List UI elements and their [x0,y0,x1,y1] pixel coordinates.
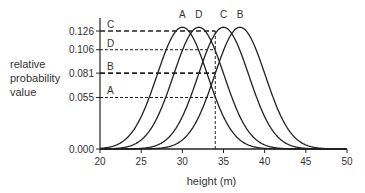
x-tick-label: 20 [94,156,106,167]
y-tick-label: 0.081 [69,68,94,79]
x-tick-label: 50 [341,156,353,167]
x-tick-label: 45 [300,156,312,167]
curve-C [100,27,347,149]
dashed-line-label-C: C [107,19,114,30]
dashed-line-label-A: A [107,85,114,96]
dashed-line-label-B: B [107,61,114,72]
x-tick-label: 40 [259,156,271,167]
normal-distribution-chart: ADCBCDBA202530354045500.0000.0550.0810.1… [0,0,365,193]
curve-label-B: B [237,9,244,20]
y-tick-label: 0.106 [69,44,94,55]
chart-labels: ADCBCDBA202530354045500.0000.0550.0810.1… [69,9,353,187]
curve-label-A: A [179,9,186,20]
x-tick-label: 30 [177,156,189,167]
axes [96,18,347,153]
curve-A [100,27,347,149]
x-axis-title: height (m) [187,175,237,187]
y-tick-label: 0.126 [69,26,94,37]
dashed-line-label-D: D [107,38,114,49]
curve-label-C: C [220,9,227,20]
curve-label-D: D [195,9,202,20]
distribution-curves [100,27,347,149]
y-tick-label: 0.000 [69,144,94,155]
curve-D [100,27,347,149]
y-tick-label: 0.055 [69,92,94,103]
x-tick-label: 25 [136,156,148,167]
curve-B [100,27,347,149]
x-tick-label: 35 [218,156,230,167]
